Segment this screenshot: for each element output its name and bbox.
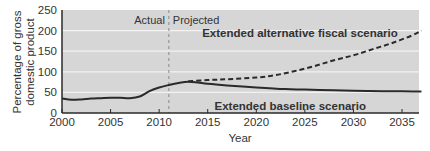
y-tick-label: 150 bbox=[38, 45, 57, 57]
actual-label: Actual bbox=[134, 14, 165, 26]
y-tick-labels: 050100150200250 bbox=[38, 4, 57, 119]
y-axis-label-line: domestic product bbox=[24, 17, 36, 105]
baseline-scenario-annotation: Extended baseline scenario bbox=[215, 100, 366, 112]
x-tick-label: 2000 bbox=[49, 116, 75, 128]
x-tick-label: 2025 bbox=[292, 116, 318, 128]
x-tick-label: 2020 bbox=[243, 116, 269, 128]
x-tick-label: 2010 bbox=[146, 116, 172, 128]
y-tick-label: 50 bbox=[44, 86, 57, 98]
alternative-scenario-annotation: Extended alternative fiscal scenario bbox=[202, 27, 398, 39]
projected-label: Projected bbox=[173, 14, 219, 26]
debt-projection-chart: Actual Projected Extended alternative fi… bbox=[0, 0, 430, 151]
x-tick-label: 2030 bbox=[341, 116, 367, 128]
x-tick-label: 2035 bbox=[389, 116, 415, 128]
y-tick-label: 250 bbox=[38, 4, 57, 16]
y-tick-label: 100 bbox=[38, 66, 57, 78]
y-axis-label-line: Percentage of gross bbox=[11, 10, 23, 113]
x-tick-label: 2005 bbox=[98, 116, 124, 128]
y-axis-label: Percentage of grossdomestic product bbox=[11, 10, 36, 113]
x-axis-label: Year bbox=[228, 132, 251, 144]
y-tick-label: 200 bbox=[38, 25, 57, 37]
x-tick-label: 2015 bbox=[195, 116, 221, 128]
